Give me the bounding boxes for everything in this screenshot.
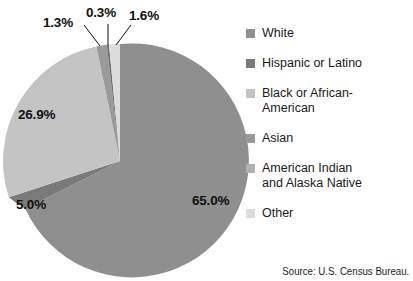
slice-label-hispanic-or-latino: 5.0%: [16, 197, 46, 212]
legend-item-label: White: [262, 26, 294, 41]
legend-item-asian[interactable]: Asian: [246, 131, 411, 146]
legend-item-label: American Indian and Alaska Native: [262, 161, 362, 191]
legend-item-label: Other: [262, 206, 293, 221]
slice-label-asian: 1.3%: [43, 15, 73, 30]
legend-item-label: Hispanic or Latino: [262, 56, 362, 71]
legend-item-label: Asian: [262, 131, 293, 146]
slice-label-other: 1.6%: [129, 8, 159, 23]
legend-swatch-icon: [246, 209, 255, 218]
legend-item-white[interactable]: White: [246, 26, 411, 41]
legend-item-american-indian-and-alaska-native[interactable]: American Indian and Alaska Native: [246, 161, 411, 191]
pie-chart-figure: 65.0% 26.9% 5.0% 1.3% 0.3% 1.6% White Hi…: [0, 0, 413, 281]
legend-swatch-icon: [246, 29, 255, 38]
legend-item-label: Black or African- American: [262, 86, 353, 116]
legend-swatch-icon: [246, 59, 255, 68]
slice-label-black-or-african-american: 26.9%: [18, 107, 55, 122]
legend-swatch-icon: [246, 89, 255, 98]
legend-swatch-icon: [246, 134, 255, 143]
slice-label-white: 65.0%: [192, 193, 229, 208]
legend-item-other[interactable]: Other: [246, 206, 411, 221]
leader-line-other: [116, 25, 131, 45]
slice-label-american-indian-and-alaska-native: 0.3%: [86, 5, 116, 20]
leader-line-asian: [84, 25, 100, 46]
legend-item-hispanic-or-latino[interactable]: Hispanic or Latino: [246, 56, 411, 71]
legend-swatch-icon: [246, 164, 255, 173]
chart-legend: White Hispanic or Latino Black or Africa…: [246, 26, 411, 236]
source-note: Source: U.S. Census Bureau.: [282, 265, 409, 277]
legend-item-black-or-african-american[interactable]: Black or African- American: [246, 86, 411, 116]
